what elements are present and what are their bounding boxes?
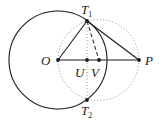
segment-o-t1 — [58, 21, 87, 60]
point-o — [56, 58, 60, 62]
point-t2 — [85, 98, 89, 102]
label-o: O — [41, 53, 51, 68]
point-p — [137, 58, 141, 62]
point-t1 — [85, 19, 89, 23]
segment-t1-v — [87, 21, 99, 60]
label-t2: T2 — [81, 103, 92, 120]
label-u: U — [75, 65, 86, 80]
label-p: P — [144, 53, 153, 68]
label-t1-sub: 1 — [88, 10, 92, 19]
label-t1: T1 — [81, 2, 92, 19]
point-u — [85, 58, 89, 62]
point-v — [97, 58, 101, 62]
label-t2-sub: 2 — [88, 111, 92, 120]
geometry-diagram: O U V P T1 T2 — [0, 0, 165, 126]
label-v: V — [91, 65, 101, 80]
tangent-t1-p — [87, 21, 139, 60]
